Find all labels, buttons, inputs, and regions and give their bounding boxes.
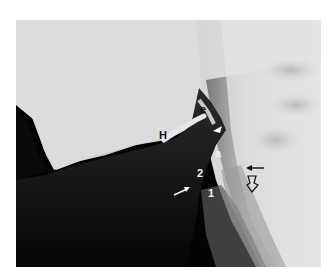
label-e: e (200, 104, 206, 115)
label-2: 2 (197, 168, 203, 179)
label-H: H (159, 130, 167, 141)
xray-shading (16, 20, 321, 267)
label-1: 1 (208, 188, 214, 199)
label-a: a (215, 148, 221, 159)
xray-image: e H a 2 1 (16, 20, 321, 267)
